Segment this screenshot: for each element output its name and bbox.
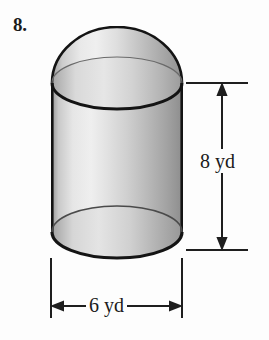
width-arrowhead-right xyxy=(169,300,183,311)
cylinder-with-dome-solid xyxy=(50,26,184,260)
height-dimension-label: 8 yd xyxy=(198,149,237,173)
height-arrowhead-up xyxy=(216,82,227,96)
width-arrowhead-left xyxy=(50,300,64,311)
figure-canvas: 8. xyxy=(0,0,269,340)
height-arrowhead-down xyxy=(216,237,227,251)
solid-svg xyxy=(50,26,184,260)
width-dimension-label: 6 yd xyxy=(86,294,127,316)
problem-number: 8. xyxy=(13,14,27,36)
